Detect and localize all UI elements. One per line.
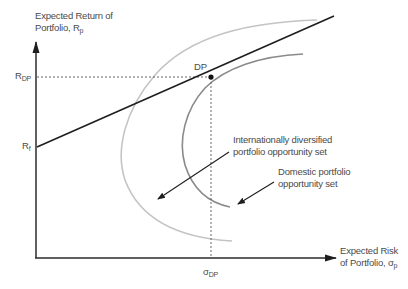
y-axis-label-subscript: p [80, 27, 84, 34]
domestic-label-line2: opportunity set [278, 178, 350, 190]
x-axis-label: Expected Risk of Portfolio, σp [340, 245, 398, 272]
r-dp-main: R [15, 70, 22, 81]
x-axis-label-subscript: p [394, 262, 398, 269]
y-axis-label-text: Portfolio, R [35, 22, 80, 33]
intl-opportunity-set-label: Internationally diversified portfolio op… [233, 134, 332, 158]
intl-label-line2: portfolio opportunity set [233, 146, 332, 158]
x-axis-label-line1: Expected Risk [340, 245, 398, 257]
dp-point-label: DP [194, 61, 207, 73]
dp-point-marker [208, 74, 213, 79]
sigma-dp-tick-label: σDP [203, 266, 218, 281]
y-axis-label-line1: Expected Return of [35, 10, 113, 22]
domestic-label-line1: Domestic portfolio [278, 166, 350, 178]
r-f-tick-label: Rf [22, 140, 30, 155]
r-dp-tick-label: RDP [15, 70, 31, 85]
y-axis-label-line2: Portfolio, Rp [35, 22, 113, 37]
domestic-label-arrow [238, 182, 274, 204]
r-f-subscript: f [29, 145, 31, 152]
domestic-opportunity-set-label: Domestic portfolio opportunity set [278, 166, 350, 190]
international-opportunity-set-curve [121, 20, 317, 241]
x-axis-label-line2: of Portfolio, σp [340, 257, 398, 272]
r-dp-subscript: DP [22, 75, 31, 82]
intl-label-arrow [158, 152, 229, 199]
intl-label-line1: Internationally diversified [233, 134, 332, 146]
sigma-dp-subscript: DP [209, 271, 218, 278]
x-axis-label-text: of Portfolio, σ [340, 257, 394, 268]
r-f-main: R [22, 140, 29, 151]
y-axis-label: Expected Return of Portfolio, Rp [35, 10, 113, 37]
